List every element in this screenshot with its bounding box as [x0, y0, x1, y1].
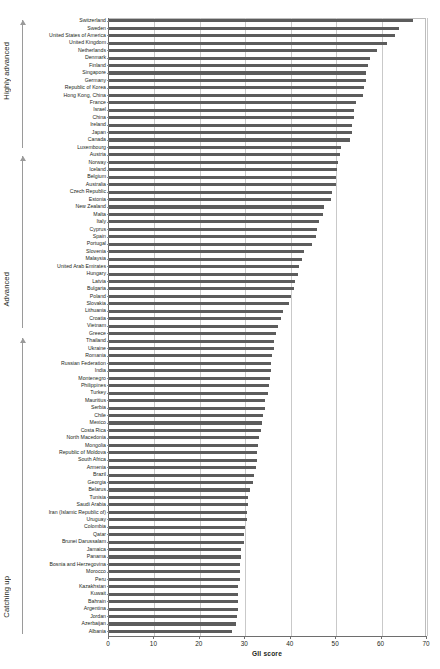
country-label: Colombia — [84, 523, 106, 530]
bar — [109, 600, 238, 603]
bar — [109, 392, 268, 395]
bar — [109, 213, 323, 216]
country-label: Bahrain — [88, 598, 106, 605]
bar — [109, 138, 350, 141]
country-label: Switzerland — [79, 17, 106, 24]
bar — [109, 474, 254, 477]
bar — [109, 49, 377, 52]
bar-row: Bahrain — [109, 599, 426, 606]
bar-row: Belarus — [109, 487, 426, 494]
bar-row: China — [109, 115, 426, 122]
country-label: Ukraine — [88, 345, 106, 352]
bar — [109, 533, 244, 536]
bar-row: Brazil — [109, 472, 426, 479]
bar — [109, 444, 258, 447]
country-label: Thailand — [86, 337, 106, 344]
country-label: Canada — [88, 136, 106, 143]
gridline-70 — [427, 18, 428, 636]
country-label: Bosnia and Herzegovina — [49, 561, 106, 568]
country-label: Azerbaijan — [81, 620, 106, 627]
bar — [109, 250, 304, 253]
country-label: Iceland — [89, 166, 106, 173]
x-axis-tick-label: 10 — [150, 640, 157, 647]
country-label: Czech Republic — [70, 188, 106, 195]
bar — [109, 258, 302, 261]
bar-row: Croatia — [109, 316, 426, 323]
bar — [109, 243, 312, 246]
bar-row: Georgia — [109, 480, 426, 487]
x-axis-tick — [381, 636, 382, 639]
country-label: Kuwait — [90, 590, 106, 597]
x-axis-tick — [244, 636, 245, 639]
bar — [109, 332, 276, 335]
country-label: Spain — [93, 233, 106, 240]
bar — [109, 548, 241, 551]
country-label: South Africa — [78, 456, 106, 463]
bar-row: Hungary — [109, 271, 426, 278]
bar-row: Brunei Darussalam — [109, 539, 426, 546]
bar-row: Denmark — [109, 55, 426, 62]
bar — [109, 101, 356, 104]
bar — [109, 198, 331, 201]
country-label: Jamaica — [87, 546, 106, 553]
country-label: Bulgaria — [87, 285, 106, 292]
bar-row: Bosnia and Herzegovina — [109, 562, 426, 569]
bar-row: Republic of Moldova — [109, 450, 426, 457]
bar — [109, 511, 247, 514]
bar-row: Republic of Korea — [109, 85, 426, 92]
country-label: Qatar — [93, 531, 106, 538]
bar-row: Norway — [109, 159, 426, 166]
bar-row: Thailand — [109, 338, 426, 345]
x-axis-tick — [108, 636, 109, 639]
group-label-catching-up: Catching up — [2, 576, 11, 618]
bar — [109, 273, 298, 276]
bar — [109, 630, 232, 633]
bar — [109, 429, 261, 432]
bar-row: Russian Federation — [109, 361, 426, 368]
bar — [109, 146, 341, 149]
bar — [109, 399, 265, 402]
country-label: Lithuania — [85, 307, 106, 314]
country-label: Poland — [90, 293, 106, 300]
country-label: Uruguay — [86, 516, 106, 523]
bar — [109, 295, 291, 298]
bar — [109, 64, 368, 67]
bar-row: Jordan — [109, 614, 426, 621]
x-axis-tick-label: 20 — [195, 640, 202, 647]
country-label: Georgia — [88, 479, 106, 486]
x-axis-tick-label: 30 — [241, 640, 248, 647]
country-label: Italy — [96, 218, 106, 225]
bar-row: Azerbaijan — [109, 621, 426, 628]
bar — [109, 555, 241, 558]
bar-row: Albania — [109, 629, 426, 636]
country-label: Serbia — [91, 404, 106, 411]
bar-row: Hong Kong, China — [109, 92, 426, 99]
bar — [109, 347, 274, 350]
country-label: Argentina — [84, 605, 106, 612]
bar — [109, 109, 354, 112]
bar — [109, 220, 319, 223]
country-label: Armenia — [87, 464, 106, 471]
bar-row: Finland — [109, 63, 426, 70]
bar-row: Italy — [109, 219, 426, 226]
bar — [109, 79, 366, 82]
bar — [109, 57, 370, 60]
bar-row: Jamaica — [109, 547, 426, 554]
country-label: United Arab Emirates — [57, 263, 106, 270]
country-label: Slovenia — [86, 248, 106, 255]
bar — [109, 19, 413, 22]
bar-row: Germany — [109, 78, 426, 85]
bar — [109, 593, 238, 596]
country-label: Romania — [85, 352, 106, 359]
bar — [109, 71, 366, 74]
bar-row: Mexico — [109, 420, 426, 427]
country-label: Belgium — [87, 173, 106, 180]
country-label: North Macedonia — [66, 434, 106, 441]
bar — [109, 86, 364, 89]
bar — [109, 563, 240, 566]
group-band-highly-advanced: Highly advanced — [0, 18, 36, 150]
country-label: Portugal — [87, 240, 106, 247]
x-axis-tick-label: 70 — [422, 640, 429, 647]
bar-row: Ireland — [109, 122, 426, 129]
country-label: Tunisia — [89, 494, 106, 501]
